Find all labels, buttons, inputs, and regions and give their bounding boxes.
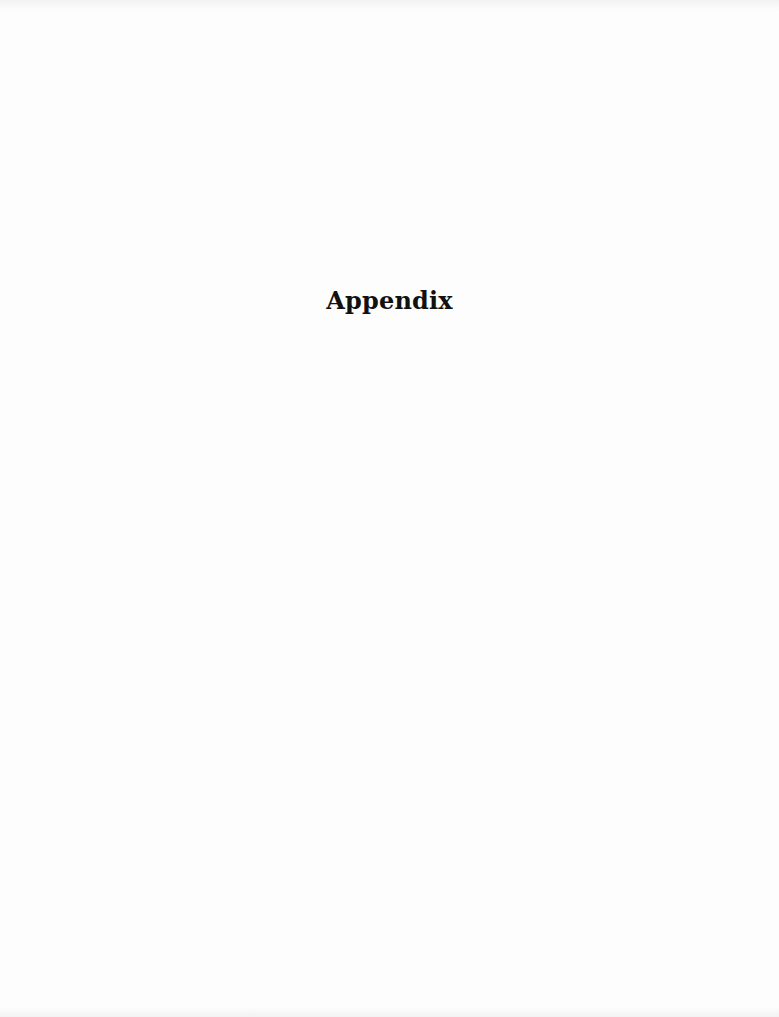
document-page: Appendix: [0, 0, 779, 1017]
scan-edge-top: [0, 0, 779, 10]
scan-edge-bottom: [0, 1007, 779, 1017]
page-title: Appendix: [0, 286, 779, 315]
